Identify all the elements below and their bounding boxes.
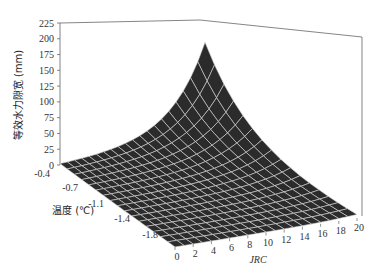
z-tick-label: 175 — [39, 49, 54, 60]
z-tick-label: 200 — [39, 33, 54, 44]
z-axis-ticks: 0255075100125150175200225 — [39, 18, 60, 171]
z-axis-label: 等效水力隙宽 (mm) — [12, 50, 24, 141]
z-tick-label: 75 — [44, 112, 54, 123]
jrc-axis-label: JRC — [249, 254, 267, 265]
surface-chart: 0255075100125150175200225 -0.4-0.7-1.1-1… — [0, 0, 379, 278]
jrc-tick-label: 20 — [354, 222, 364, 233]
jrc-tick-label: 10 — [263, 237, 273, 248]
jrc-tick-label: 14 — [299, 231, 309, 242]
jrc-tick-label: 4 — [211, 245, 216, 256]
z-tick-label: 225 — [39, 18, 54, 29]
jrc-tick-label: 18 — [336, 225, 346, 236]
jrc-tick-label: 12 — [281, 234, 291, 245]
temperature-axis-label: 温度 (℃) — [52, 204, 94, 216]
jrc-tick-label: 16 — [318, 228, 328, 239]
z-tick-label: 100 — [39, 96, 54, 107]
jrc-tick-label: 2 — [193, 248, 198, 259]
z-tick-label: 50 — [44, 128, 54, 139]
temperature-tick-label: -0.4 — [34, 168, 50, 179]
temperature-tick-label: -0.7 — [62, 182, 78, 193]
z-tick-label: 25 — [44, 144, 54, 155]
jrc-tick-label: 6 — [229, 242, 234, 253]
temperature-tick-label: -1.4 — [114, 213, 130, 224]
jrc-tick-label: 8 — [247, 239, 252, 250]
surface-mesh — [60, 42, 357, 247]
z-tick-label: 125 — [39, 81, 54, 92]
jrc-tick-label: 0 — [175, 251, 180, 262]
z-tick-label: 150 — [39, 65, 54, 76]
temperature-tick-label: -1.8 — [142, 229, 158, 240]
